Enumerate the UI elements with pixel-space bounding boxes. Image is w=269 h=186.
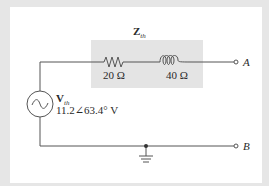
terminal-a-node — [234, 60, 238, 64]
thevenin-voltage-value: 11.2∠63.4° V — [56, 105, 118, 116]
terminal-b-node — [234, 144, 238, 148]
ground-icon — [139, 156, 153, 162]
junction-dot — [144, 144, 148, 148]
terminal-a-label: A — [243, 57, 250, 68]
sine-wave-icon — [32, 100, 48, 109]
resistor-value: 20 Ω — [103, 70, 125, 81]
thevenin-impedance-label: Zth — [133, 26, 146, 40]
wire-bottom — [40, 117, 234, 146]
inductor-value: 40 Ω — [166, 70, 188, 81]
terminal-b-label: B — [243, 141, 250, 152]
